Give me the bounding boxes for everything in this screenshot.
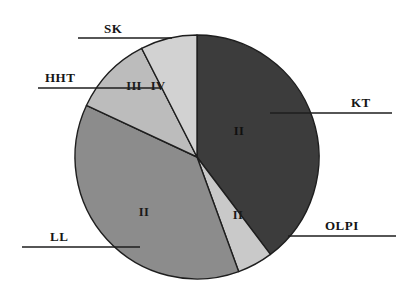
slice-inner-label-sk: IV	[151, 79, 166, 93]
pie-chart-canvas: IIIIIIIIIIV	[0, 0, 398, 297]
callout-label-kt: KT	[351, 96, 371, 109]
slice-inner-label-ll: II	[139, 205, 149, 219]
slice-inner-label-hht: III	[126, 79, 142, 93]
callout-label-hht: HHT	[45, 71, 75, 84]
callout-label-olpi: OLPI	[325, 219, 359, 232]
callout-label-ll: LL	[50, 230, 68, 243]
slice-inner-label-olpi: II	[233, 208, 243, 222]
callout-label-sk: SK	[104, 22, 122, 35]
slice-inner-label-kt: II	[234, 124, 244, 138]
pie-chart-figure: IIIIIIIIIIV SK HHT KT OLPI LL	[0, 0, 398, 297]
pie-slices-group	[75, 35, 319, 279]
